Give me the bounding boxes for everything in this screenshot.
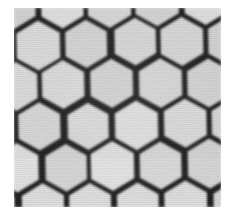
- hexagon-lattice-svg: [14, 8, 221, 207]
- hexagonal-lattice-micrograph: [14, 8, 221, 207]
- screenshot-root: [0, 0, 225, 213]
